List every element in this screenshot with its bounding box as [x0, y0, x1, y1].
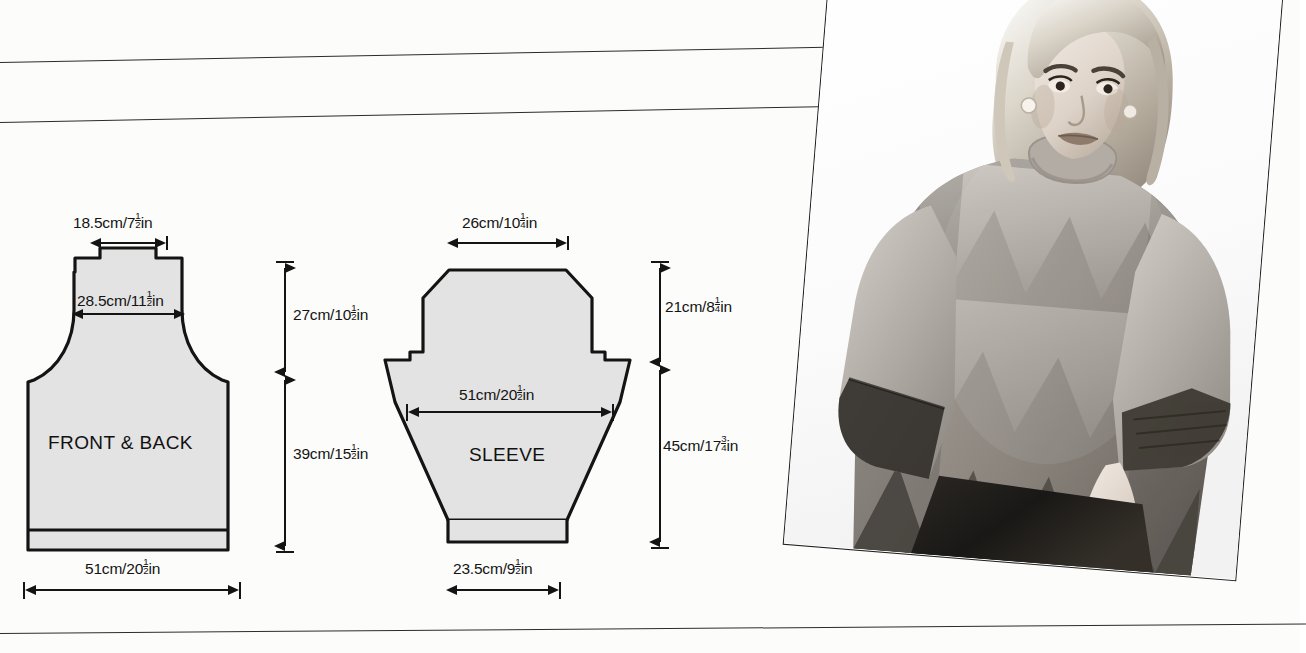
photo-image — [784, 0, 1283, 580]
dim-arrow-sleeve-top-width — [458, 236, 568, 250]
dim-label-yoke-height: 27cm/1012in — [293, 304, 368, 324]
model-photograph — [783, 0, 1285, 581]
photo-frame — [783, 0, 1285, 581]
rule-line-top-1 — [0, 46, 876, 63]
dim-arrow-yoke-height — [276, 262, 294, 372]
dim-label-body-height: 39cm/1512in — [293, 443, 368, 463]
dim-label-sleeve-head-height: 21cm/814in — [665, 296, 732, 316]
dim-label-hem-width: 51cm/2012in — [85, 558, 160, 578]
dim-arrow-sleeve-cuff-width — [457, 582, 560, 599]
piece-label-sleeve: SLEEVE — [469, 444, 545, 466]
piece-sleeve-outline — [385, 270, 630, 542]
dim-label-shoulder-width: 28.5cm/1112in — [77, 290, 164, 310]
dim-label-sleeve-cuff-width: 23.5cm/912in — [453, 558, 532, 578]
dim-label-neck-width: 18.5cm/712in — [73, 212, 152, 232]
piece-label-front-back: FRONT & BACK — [48, 432, 193, 454]
garment-schematic — [0, 190, 800, 620]
dim-label-sleeve-length: 45cm/1734in — [663, 435, 738, 455]
dim-label-sleeve-top-width: 26cm/1014in — [462, 212, 537, 232]
dim-arrow-sleeve-length — [651, 370, 669, 548]
dim-arrow-hem-width — [24, 582, 240, 599]
rule-line-bottom — [0, 623, 1306, 634]
rule-line-top-2 — [0, 106, 848, 124]
dim-arrow-body-height — [276, 380, 294, 552]
dim-label-sleeve-upper-width: 51cm/2012in — [459, 384, 534, 404]
